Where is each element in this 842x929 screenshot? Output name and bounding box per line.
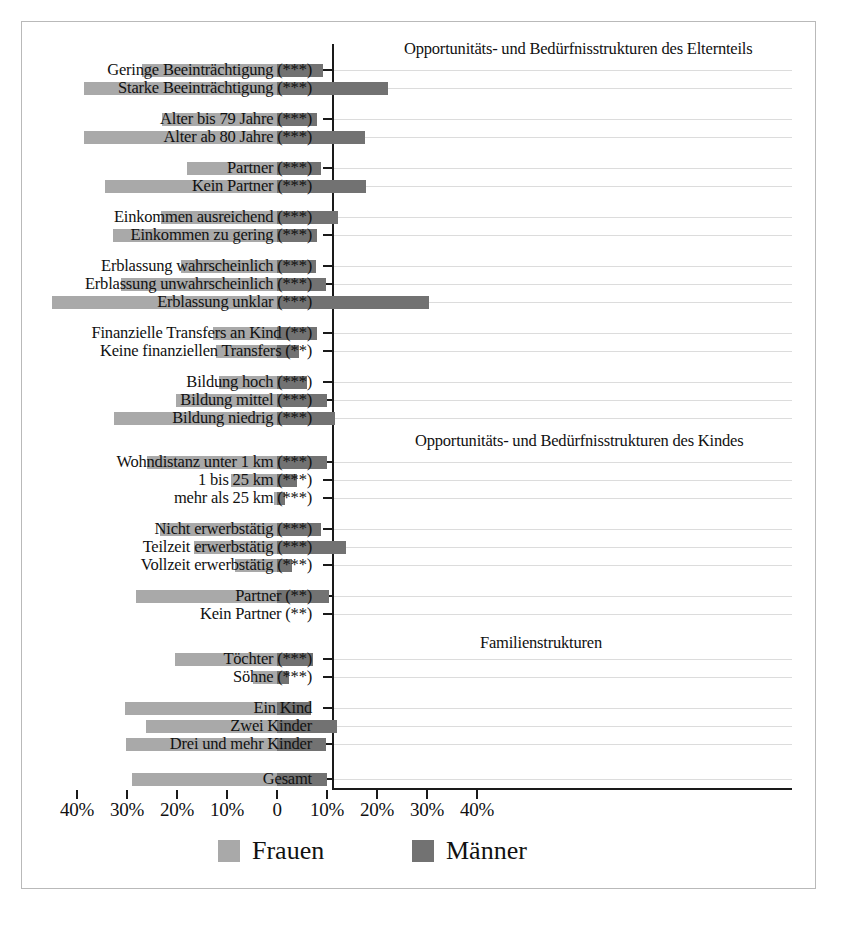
x-tick — [376, 790, 378, 799]
category-label: Bildung niedrig (***) — [172, 410, 312, 427]
category-label: Teilzeit erwerbstätig (***) — [143, 539, 312, 556]
gridline — [334, 88, 792, 89]
x-tick — [276, 790, 278, 799]
category-label: Töchter (***) — [223, 651, 312, 668]
category-label: Kein Partner (***) — [192, 178, 312, 195]
gridline — [334, 119, 792, 120]
section-title: Familienstrukturen — [480, 634, 602, 651]
y-tick — [323, 479, 334, 481]
gridline — [334, 677, 792, 678]
x-tick — [176, 790, 178, 799]
gridline — [334, 726, 792, 727]
legend-swatch-maenner — [412, 840, 434, 862]
y-tick — [323, 707, 334, 709]
y-tick — [323, 381, 334, 383]
category-label: Partner (***) — [227, 160, 312, 177]
y-tick — [323, 167, 334, 169]
y-tick — [323, 234, 334, 236]
category-label: Geringe Beeinträchtigung (***) — [107, 62, 312, 79]
y-tick — [323, 613, 334, 615]
gridline — [334, 659, 792, 660]
y-tick — [323, 69, 334, 71]
gridline — [334, 168, 792, 169]
category-label: mehr als 25 km (***) — [174, 490, 312, 507]
category-label: Bildung hoch (***) — [186, 374, 312, 391]
category-label: Einkommen ausreichend (***) — [114, 209, 312, 226]
category-label: Kein Partner (**) — [200, 606, 312, 623]
category-label: Nicht erwerbstätig (***) — [155, 521, 312, 538]
category-label: Drei und mehr Kinder — [170, 736, 312, 753]
section-title: Opportunitäts- und Bedürfnisstrukturen d… — [404, 40, 752, 57]
gridline — [334, 70, 792, 71]
x-tick-label: 40% — [447, 800, 507, 819]
category-label: 1 bis 25 km (***) — [198, 472, 312, 489]
category-label: Alter bis 79 Jahre (***) — [160, 111, 312, 128]
y-tick — [323, 118, 334, 120]
legend-label-frauen: Frauen — [252, 834, 324, 868]
y-tick — [323, 497, 334, 499]
y-tick — [323, 350, 334, 352]
gridline — [334, 596, 792, 597]
category-label: Bildung mittel (***) — [180, 392, 312, 409]
category-label: Einkommen zu gering (***) — [131, 227, 313, 244]
gridline — [334, 565, 792, 566]
gridline — [334, 614, 792, 615]
category-label: Finanzielle Transfers an Kind (**) — [92, 325, 313, 342]
legend-label-maenner: Männer — [446, 834, 527, 868]
x-tick — [76, 790, 78, 799]
chart-plot-area: Geringe Beeinträchtigung (***)Starke Bee… — [22, 22, 817, 890]
category-label: Erblassung unklar (***) — [157, 294, 312, 311]
gridline — [334, 266, 792, 267]
gridline — [334, 498, 792, 499]
gridline — [334, 186, 792, 187]
category-label: Alter ab 80 Jahre (***) — [164, 129, 312, 146]
gridline — [334, 137, 792, 138]
category-label: Zwei Kinder — [230, 718, 312, 735]
section-title: Opportunitäts- und Bedürfnisstrukturen d… — [415, 432, 743, 449]
legend-swatch-frauen — [218, 840, 240, 862]
chart-legend: Frauen Männer — [22, 834, 817, 880]
y-tick — [323, 658, 334, 660]
y-tick — [323, 528, 334, 530]
gridline — [334, 708, 792, 709]
bar-frauen — [132, 773, 277, 786]
gridline — [334, 418, 792, 419]
category-label: Erblassung unwahrscheinlich (***) — [85, 276, 312, 293]
x-axis-line — [332, 788, 792, 790]
category-label: Wohndistanz unter 1 km (***) — [116, 454, 312, 471]
gridline — [334, 400, 792, 401]
gridline — [334, 529, 792, 530]
category-label: Starke Beeinträchtigung (***) — [118, 80, 312, 97]
y-tick — [323, 564, 334, 566]
category-label: Ein Kind — [254, 700, 312, 717]
gridline — [334, 779, 792, 780]
category-label: Partner (**) — [235, 588, 312, 605]
x-tick — [326, 790, 328, 799]
y-tick — [323, 265, 334, 267]
gridline — [334, 462, 792, 463]
gridline — [334, 744, 792, 745]
gridline — [334, 284, 792, 285]
gridline — [334, 547, 792, 548]
x-tick — [426, 790, 428, 799]
x-tick — [476, 790, 478, 799]
category-label: Erblassung wahrscheinlich (***) — [101, 258, 312, 275]
gridline — [334, 235, 792, 236]
y-tick — [323, 332, 334, 334]
y-tick — [323, 676, 334, 678]
gridline — [334, 333, 792, 334]
category-label: Gesamt — [263, 771, 312, 788]
gridline — [334, 217, 792, 218]
gridline — [334, 382, 792, 383]
gridline — [334, 351, 792, 352]
x-tick — [226, 790, 228, 799]
category-label: Keine finanziellen Transfers (**) — [100, 343, 312, 360]
category-label: Söhne (***) — [233, 669, 312, 686]
x-tick — [126, 790, 128, 799]
chart-frame: Geringe Beeinträchtigung (***)Starke Bee… — [21, 21, 816, 889]
category-label: Vollzeit erwerbstätig (***) — [141, 557, 312, 574]
gridline — [334, 480, 792, 481]
